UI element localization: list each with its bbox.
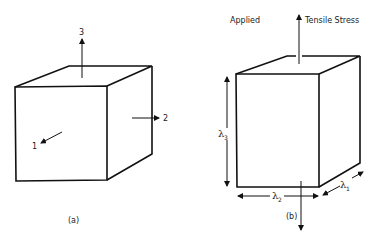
cube-b-top-left-edge (236, 56, 296, 74)
axis-1-label: 1 (32, 142, 37, 151)
axis-3-label: 3 (79, 28, 84, 37)
cube-b-top-right-edge (302, 56, 360, 74)
cube-a (15, 66, 152, 181)
lambda1-subscript: 1 (346, 185, 350, 192)
panel-a: 3 2 1 (a) (15, 28, 168, 225)
stress-label-applied: Applied (230, 16, 260, 25)
diagram-canvas: 3 2 1 (a) Applied Tensile Stress (b) λ 3… (0, 0, 375, 244)
lambda3-subscript: 3 (224, 134, 228, 141)
caption-b: (b) (286, 212, 297, 221)
axis-1-arrow (41, 132, 62, 143)
cube-b (236, 56, 360, 187)
lambda1-arrow-back (352, 172, 363, 178)
lambda2-subscript: 2 (278, 196, 282, 203)
cube-a-front-face (15, 86, 107, 181)
axis-2-label: 2 (163, 114, 168, 123)
cube-a-top-face (15, 66, 152, 87)
lambda1-arrow-front (323, 186, 340, 195)
caption-a: (a) (68, 216, 79, 225)
panel-b: Applied Tensile Stress (b) λ 3 λ 2 λ 1 (218, 15, 363, 230)
cube-b-side-face (319, 56, 360, 187)
stress-label-tensile: Tensile Stress (304, 16, 359, 25)
cube-b-front-face (236, 74, 319, 187)
